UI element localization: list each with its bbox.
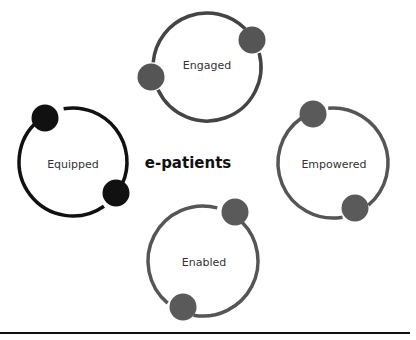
cycle-ring-arc <box>64 108 127 185</box>
cycle-node-dot <box>222 199 249 226</box>
cycle-node-dot <box>300 101 327 128</box>
cycle-label-enabled: Enabled <box>182 256 226 269</box>
cycle-ring-arc <box>193 222 258 316</box>
cycle-node-dot <box>138 64 165 91</box>
cycle-label-equipped: Equipped <box>47 158 99 171</box>
cycle-ring-arc <box>153 13 245 62</box>
cycle-label-empowered: Empowered <box>301 158 366 171</box>
bottom-divider <box>0 332 410 334</box>
center-label: e-patients <box>145 154 232 172</box>
cycle-node-dot <box>32 105 59 132</box>
cycle-node-dot <box>103 180 130 207</box>
cycle-node-dot <box>170 294 197 321</box>
cycle-label-engaged: Engaged <box>183 59 231 72</box>
cycle-node-dot <box>239 27 266 54</box>
cycle-node-dot <box>342 195 369 222</box>
